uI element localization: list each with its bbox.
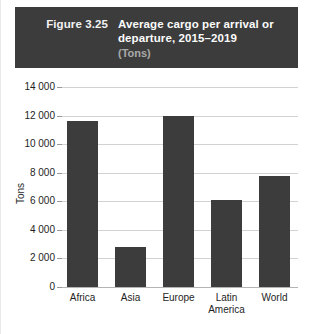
y-axis-tick-mark	[57, 144, 62, 145]
y-axis-tick-label: 12 000	[9, 111, 55, 121]
x-axis-label-world: World	[245, 292, 305, 304]
bar-europe[interactable]	[163, 116, 194, 287]
y-axis-title: Tons	[15, 174, 26, 214]
y-axis-tick-label: 2 000	[9, 253, 55, 263]
y-axis-tick-mark	[57, 258, 62, 259]
y-axis-tick-mark	[57, 116, 62, 117]
y-axis-tick-mark	[57, 287, 62, 288]
bar-world[interactable]	[259, 176, 290, 287]
y-axis-tick-mark	[57, 230, 62, 231]
bar-latin-america[interactable]	[211, 200, 242, 287]
figure-container: Figure 3.25 Average cargo per arrival or…	[0, 0, 312, 334]
y-axis-tick-mark	[57, 173, 62, 174]
y-axis-tick-label: 4 000	[9, 225, 55, 235]
y-axis-tick-label: 8 000	[9, 168, 55, 178]
y-axis-tick-label: 14 000	[9, 82, 55, 92]
y-axis-tick-mark	[57, 201, 62, 202]
gridline	[61, 287, 298, 288]
bar-africa[interactable]	[67, 121, 98, 287]
y-axis-tick-label: 6 000	[9, 196, 55, 206]
plot-area: Tons 14 00012 00010 0008 0006 0004 0002 …	[1, 0, 312, 334]
y-axis-tick-label: 0	[9, 282, 55, 292]
y-axis-tick-label: 10 000	[9, 139, 55, 149]
gridline	[61, 87, 298, 88]
y-axis-tick-mark	[57, 87, 62, 88]
bar-asia[interactable]	[115, 247, 146, 287]
